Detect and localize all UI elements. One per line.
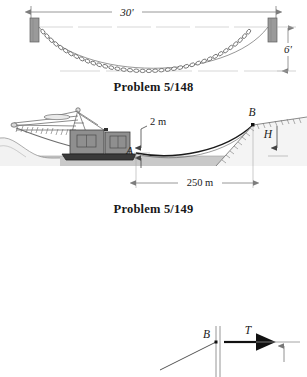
chain-catenary xyxy=(39,27,268,73)
horizontal-span-label: 250 m xyxy=(187,177,214,188)
cable-sag-label: 2 m xyxy=(150,116,166,127)
point-b-label: B xyxy=(203,328,210,340)
caption-problem-5-148: Problem 5/148 xyxy=(0,80,307,95)
sag-dimension-label: 6' xyxy=(284,43,293,55)
span-dimension-label: 30' xyxy=(119,6,134,18)
right-support-block xyxy=(268,18,277,42)
vertical-post xyxy=(216,326,220,377)
depth-h-label: H xyxy=(263,128,273,140)
figure-free-body-at-b: B T xyxy=(0,320,307,377)
figure-page: 30' xyxy=(0,0,307,377)
point-b-marker xyxy=(215,341,218,344)
point-b-marker xyxy=(251,123,255,127)
caption-problem-5-149: Problem 5/149 xyxy=(0,202,307,217)
left-support-block xyxy=(30,18,39,42)
dredge-cabin xyxy=(70,128,130,154)
dredge-hull xyxy=(62,154,136,160)
span-dimension-30ft xyxy=(31,6,276,22)
point-b-label: B xyxy=(248,106,255,118)
point-a-label: A xyxy=(125,144,133,156)
tension-label: T xyxy=(245,324,253,336)
shore-slope-left xyxy=(0,138,60,166)
cable-segment xyxy=(160,342,216,370)
